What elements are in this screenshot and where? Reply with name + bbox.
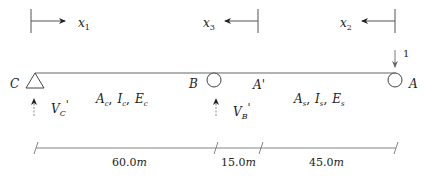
node-c-label: C	[10, 77, 19, 91]
x3-label: x3	[203, 16, 215, 32]
dimension-cb: 60.0m	[112, 156, 147, 169]
node-a-prime-label: A'	[252, 78, 265, 92]
node-a-label: A	[408, 77, 418, 91]
x1-label: x1	[78, 16, 90, 32]
load-value: 1	[403, 48, 409, 59]
pin-support-icon	[26, 73, 44, 88]
roller-support-a-icon	[388, 73, 402, 87]
reaction-vc-label: VC'	[51, 98, 69, 118]
x2-axis-arrow: x2	[340, 9, 395, 33]
unit-load: 1	[395, 48, 409, 67]
dimension-a-prime-a: 45.0m	[309, 156, 344, 169]
x3-axis-arrow: x3	[203, 9, 258, 33]
reaction-vb-label: VB'	[233, 101, 251, 121]
segment-s-properties: As,Is,Es	[293, 92, 345, 108]
x2-label: x2	[340, 16, 352, 32]
reaction-vb: VB'	[216, 99, 251, 121]
roller-support-b-icon	[207, 73, 221, 87]
node-b-label: B	[188, 77, 198, 91]
segment-c-properties: Ac,Ic,Ec	[95, 92, 148, 108]
dimension-line: 60.0m 15.0m 45.0m	[34, 142, 398, 169]
x1-axis-arrow: x1	[31, 9, 90, 33]
beam-diagram: x1 x3 x2 1 C B A' A VC' VB' Ac,Ic,Ec As,	[0, 0, 424, 176]
reaction-vc: VC'	[34, 98, 69, 118]
dimension-b-a-prime: 15.0m	[221, 156, 256, 169]
